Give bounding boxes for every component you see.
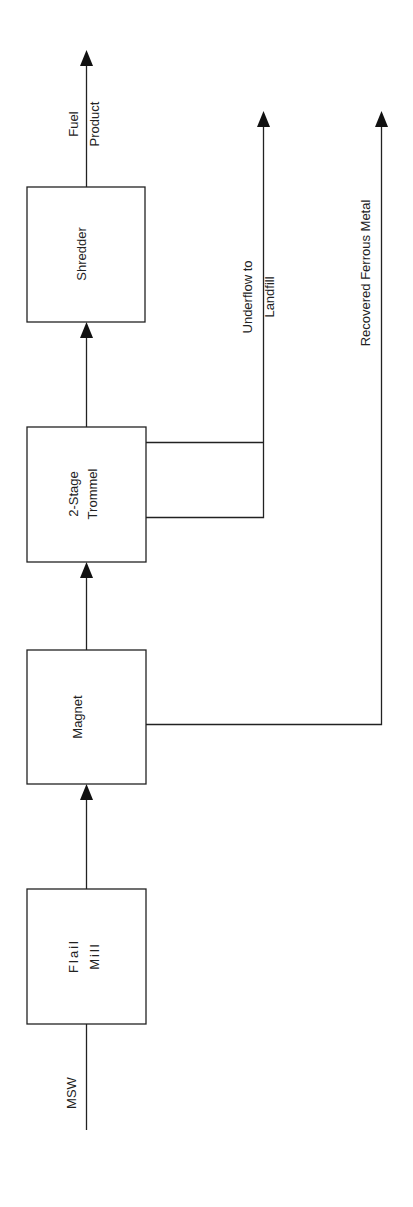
shredder-label: Shredder <box>74 227 89 281</box>
magnet-node: Magnet <box>27 650 146 784</box>
trommel-node: 2-Stage Trommel <box>27 427 146 562</box>
flail-mill-label-line1: Flail <box>66 939 81 973</box>
flail-mill-label-line2: Mill <box>87 942 102 970</box>
magnet-to-trommel-arrow <box>80 562 93 650</box>
arrowhead-icon <box>257 111 270 127</box>
process-flow-diagram: MSW Flail Mill Magnet Recovered Ferrous … <box>0 0 413 1207</box>
underflow-stream: Underflow to Landfill <box>146 111 277 518</box>
shredder-node: Shredder <box>27 187 145 322</box>
trommel-to-shredder-arrow <box>80 322 93 427</box>
underflow-label-line1: Underflow to <box>240 261 255 334</box>
fuel-label-line2: Product <box>87 101 102 146</box>
arrowhead-icon <box>80 50 93 66</box>
arrowhead-icon <box>80 322 93 338</box>
fuel-label-line1: Fuel <box>66 111 81 136</box>
msw-input-stream: MSW <box>64 1024 87 1130</box>
magnet-label: Magnet <box>70 695 85 739</box>
arrowhead-icon <box>375 111 388 127</box>
fuel-product-stream: Fuel Product <box>66 50 102 187</box>
flail-to-magnet-arrow <box>80 784 93 889</box>
trommel-label-line2: Trommel <box>85 468 100 519</box>
trommel-label-line1: 2-Stage <box>66 471 81 517</box>
msw-label: MSW <box>64 1076 79 1109</box>
ferrous-metal-label: Recovered Ferrous Metal <box>358 200 373 347</box>
arrowhead-icon <box>80 562 93 578</box>
flail-mill-node: Flail Mill <box>27 889 146 1024</box>
underflow-label-line2: Landfill <box>262 276 277 317</box>
ferrous-metal-stream: Recovered Ferrous Metal <box>146 111 388 725</box>
arrowhead-icon <box>80 784 93 800</box>
